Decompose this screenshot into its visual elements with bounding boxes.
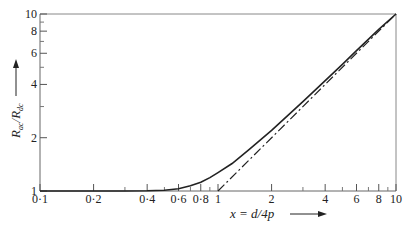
y-tick-label: 10 — [25, 7, 37, 21]
x-tick-label: 0·6 — [171, 192, 187, 206]
y-axis-arrow-icon — [13, 59, 19, 68]
y-axis-label-text: Rac/Rdc — [8, 103, 25, 139]
x-tick-label: 4 — [322, 192, 328, 206]
x-tick-label: 0·4 — [139, 192, 155, 206]
series-line-asymptote — [218, 14, 396, 191]
x-axis-ticks: 0·10·20·40·60·81246810 — [32, 184, 402, 206]
y-tick-label: 2 — [31, 131, 37, 145]
x-axis-label-text: x = d/4p — [229, 206, 275, 221]
x-tick-label: 0·2 — [86, 192, 102, 206]
x-axis-arrow-icon — [318, 211, 327, 217]
x-tick-label: 2 — [269, 192, 275, 206]
chart-svg: 0·10·20·40·60·81246810 1246810 x = d/4p … — [0, 0, 413, 228]
y-axis-ticks: 1246810 — [25, 7, 47, 198]
y-tick-label: 4 — [31, 77, 37, 91]
y-tick-label: 1 — [31, 184, 37, 198]
y-tick-label: 8 — [31, 24, 37, 38]
x-tick-label: 1 — [215, 192, 221, 206]
y-axis-label: Rac/Rdc — [8, 59, 25, 139]
x-tick-label: 10 — [390, 192, 402, 206]
x-axis-label: x = d/4p — [229, 206, 327, 221]
x-tick-label: 8 — [376, 192, 382, 206]
chart: 0·10·20·40·60·81246810 1246810 x = d/4p … — [0, 0, 413, 228]
x-tick-label: 0·8 — [193, 192, 209, 206]
y-tick-label: 6 — [31, 46, 37, 60]
x-tick-label: 6 — [354, 192, 360, 206]
series-line-rac-rdc — [40, 14, 396, 191]
chart-series — [40, 14, 396, 191]
plot-frame — [40, 14, 396, 191]
